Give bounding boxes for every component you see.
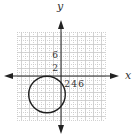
coordinate-plane: x y 6 2 2 4 6 xyxy=(0,0,132,137)
x-tick-4: 4 xyxy=(71,79,77,89)
y-axis-label: y xyxy=(56,0,64,13)
y-axis-up-arrow-icon xyxy=(58,20,64,29)
x-tick-6: 6 xyxy=(78,79,84,89)
x-axis-label: x xyxy=(125,69,132,82)
y-axis-down-arrow-icon xyxy=(58,125,64,134)
x-axis-right-arrow-icon xyxy=(110,73,119,79)
circle-curve xyxy=(29,76,66,113)
x-tick-2: 2 xyxy=(64,79,70,89)
y-tick-2: 2 xyxy=(52,63,58,73)
x-axis-left-arrow-icon xyxy=(4,73,13,79)
y-tick-6: 6 xyxy=(52,50,58,60)
